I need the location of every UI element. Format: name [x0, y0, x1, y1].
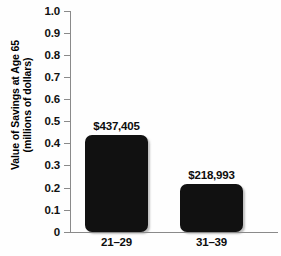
bar-chart: Value of Savings at Age 65 (millions of … — [0, 0, 281, 256]
y-tick-label: 0.1 — [0, 205, 60, 217]
y-tick-label: 0.9 — [0, 28, 60, 40]
y-tick-mark — [64, 55, 70, 56]
y-tick-mark — [64, 143, 70, 144]
x-axis-line — [70, 232, 278, 233]
y-tick-label: 0 — [0, 227, 60, 239]
y-tick-label: 0.2 — [0, 183, 60, 195]
bar-value-label-21-29: $437,405 — [85, 120, 148, 132]
y-tick-mark — [64, 188, 70, 189]
y-tick-label: 0.5 — [0, 116, 60, 128]
y-tick-label: 0.3 — [0, 160, 60, 172]
y-tick-label: 1.0 — [0, 6, 60, 18]
y-tick-mark — [64, 165, 70, 166]
bar-21-29[interactable] — [85, 135, 148, 232]
y-tick-label: 0.6 — [0, 94, 60, 106]
y-tick-mark — [64, 232, 70, 233]
bar-31-39[interactable] — [180, 184, 243, 232]
y-axis-line — [70, 11, 71, 233]
bar-value-label-31-39: $218,993 — [180, 169, 243, 181]
y-tick-label: 0.7 — [0, 72, 60, 84]
y-tick-mark — [64, 121, 70, 122]
y-tick-label: 0.4 — [0, 138, 60, 150]
x-category-label-21-29: 21–29 — [85, 236, 148, 248]
y-tick-mark — [64, 99, 70, 100]
x-category-label-31-39: 31–39 — [180, 236, 243, 248]
y-tick-label: 0.8 — [0, 50, 60, 62]
y-tick-mark — [64, 77, 70, 78]
y-tick-mark — [64, 11, 70, 12]
y-tick-mark — [64, 210, 70, 211]
y-tick-mark — [64, 33, 70, 34]
